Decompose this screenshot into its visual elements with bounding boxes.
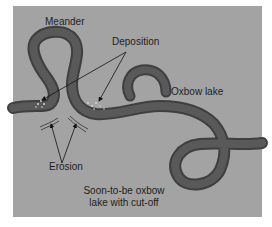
oxbow-lake-shape [128, 70, 166, 96]
soon-oxbow-label-line1: Soon-to-be oxbow [74, 185, 174, 197]
erosion-marks [40, 116, 88, 132]
meander-label: Meander [45, 16, 84, 28]
erosion-label: Erosion [49, 161, 83, 173]
deposition-label: Deposition [112, 36, 159, 48]
soon-oxbow-label-line2: lake with cut-off [74, 197, 174, 209]
oxbow-lake-label: Oxbow lake [171, 86, 223, 98]
